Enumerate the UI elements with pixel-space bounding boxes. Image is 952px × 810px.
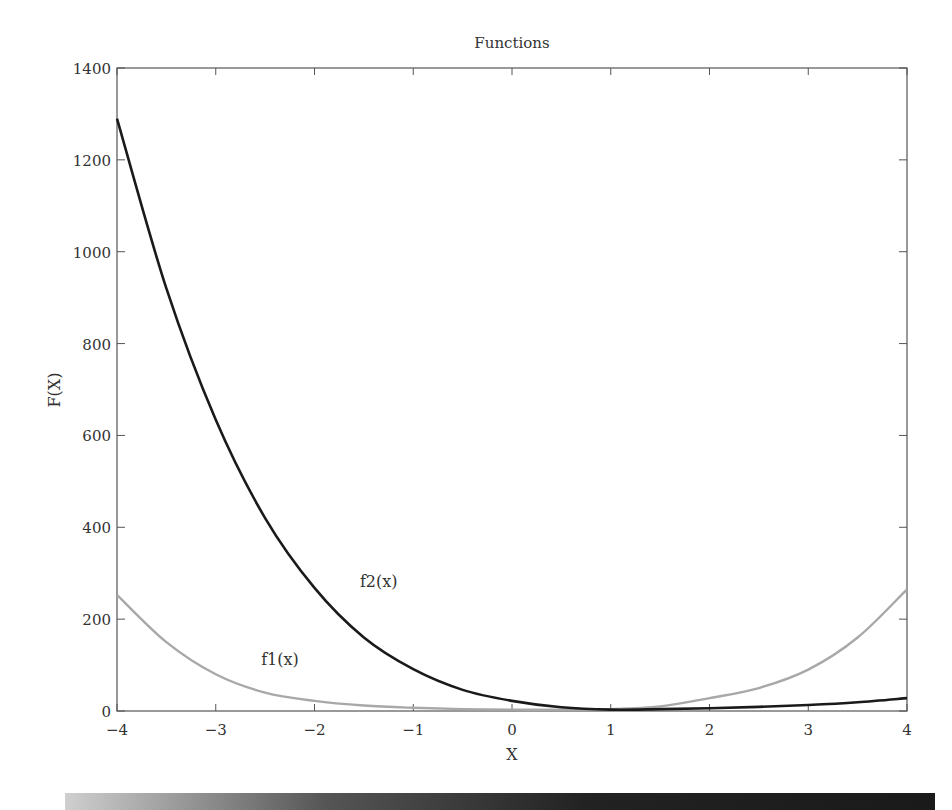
y-tick-label: 1400 [73, 60, 111, 78]
x-axis-label: X [506, 745, 518, 764]
chart: Functions −4−3−2−101234 0200400600800100… [0, 0, 952, 810]
x-tick-label: 4 [902, 721, 912, 739]
y-tick-label: 400 [82, 519, 111, 537]
y-axis: 0200400600800100012001400 [73, 60, 907, 721]
x-tick-label: 3 [803, 721, 813, 739]
series-line-f2x [117, 119, 907, 710]
x-tick-label: 2 [705, 721, 715, 739]
annotations: f1(x)f2(x) [261, 572, 397, 669]
y-tick-label: 1000 [73, 244, 111, 262]
x-axis: −4−3−2−101234 [106, 68, 912, 739]
y-tick-label: 1200 [73, 152, 111, 170]
x-tick-label: 0 [507, 721, 517, 739]
y-tick-label: 600 [82, 427, 111, 445]
x-tick-label: −4 [106, 721, 128, 739]
x-tick-label: 1 [606, 721, 616, 739]
series-lines [117, 119, 907, 710]
x-tick-label: −1 [402, 721, 424, 739]
y-tick-label: 200 [82, 611, 111, 629]
y-axis-label: F(X) [45, 373, 64, 408]
axes-frame [117, 68, 907, 711]
series-line-f1x [117, 589, 907, 709]
x-tick-label: −2 [303, 721, 325, 739]
series-annotation: f2(x) [360, 572, 398, 591]
page-edge-bar [65, 793, 935, 810]
y-tick-label: 0 [101, 703, 111, 721]
y-tick-label: 800 [82, 336, 111, 354]
plot-area [117, 68, 907, 711]
series-annotation: f1(x) [261, 650, 299, 669]
x-tick-label: −3 [205, 721, 227, 739]
chart-title: Functions [474, 34, 549, 52]
